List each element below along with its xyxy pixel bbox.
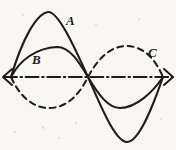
label-c: C <box>148 45 157 60</box>
label-b: B <box>31 52 41 67</box>
waveform-figure: A B C <box>0 0 176 150</box>
curve-labels: A B C <box>31 13 157 67</box>
waveform-canvas: A B C <box>0 0 176 150</box>
label-a: A <box>65 13 75 28</box>
